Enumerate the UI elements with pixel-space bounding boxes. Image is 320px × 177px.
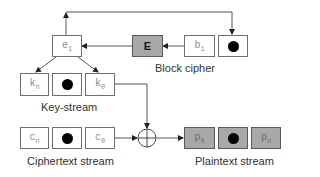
block-dot-register bbox=[218, 35, 248, 57]
pn-symbol: pn bbox=[261, 132, 271, 145]
cipher-dot-cell bbox=[52, 127, 82, 149]
ciphertext-stream-label: Ciphertext stream bbox=[27, 155, 114, 167]
bullet-dot-icon bbox=[228, 41, 239, 52]
kn-cell: kn bbox=[20, 73, 49, 96]
block-cipher-label: Block cipher bbox=[155, 62, 215, 74]
e1-register: e1 bbox=[52, 35, 82, 57]
c0-cell: c0 bbox=[85, 127, 115, 149]
b1-register: b1 bbox=[184, 35, 215, 57]
cn-symbol: cn bbox=[29, 132, 39, 145]
e1-symbol: e1 bbox=[62, 40, 72, 53]
b1-symbol: b1 bbox=[194, 40, 204, 53]
cipher-symbol: E bbox=[144, 40, 151, 52]
cn-cell: cn bbox=[20, 127, 49, 149]
k0-cell: k0 bbox=[85, 73, 115, 96]
encryption-block: E bbox=[132, 35, 163, 57]
kn-symbol: kn bbox=[29, 78, 39, 91]
xor-circle-icon bbox=[138, 129, 156, 147]
key-dot-cell bbox=[52, 73, 82, 96]
p0-cell: p0 bbox=[184, 127, 215, 149]
bullet-dot-icon bbox=[228, 133, 239, 144]
p0-symbol: p0 bbox=[194, 132, 204, 145]
k0-symbol: k0 bbox=[95, 78, 105, 91]
bullet-dot-icon bbox=[62, 79, 73, 90]
plain-dot-cell bbox=[218, 127, 248, 149]
key-stream-label: Key-stream bbox=[41, 101, 97, 113]
pn-cell: pn bbox=[251, 127, 281, 149]
plaintext-stream-label: Plaintext stream bbox=[195, 155, 274, 167]
c0-symbol: c0 bbox=[95, 132, 105, 145]
bullet-dot-icon bbox=[62, 133, 73, 144]
